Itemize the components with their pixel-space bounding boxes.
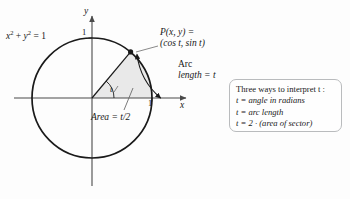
callout-item-0: t = angle in radians <box>236 95 325 106</box>
arc-length-line2: length = t <box>178 70 216 81</box>
point-leader-line <box>136 46 158 52</box>
arc-length-label: Arc length = t <box>178 59 216 80</box>
interpretation-callout-text: Three ways to interpret t : t = angle in… <box>236 84 325 130</box>
callout-item-1: t = arc length <box>236 107 325 118</box>
y-tick-one-label: 1 <box>82 28 86 38</box>
point-p-marker <box>128 49 133 54</box>
area-label: Area = t/2 <box>91 112 130 123</box>
point-p-label: P(x, y) = (cos t, sin t) <box>160 27 205 48</box>
arc-length-line1: Arc <box>178 59 216 70</box>
point-p-line1: P(x, y) = <box>160 27 205 38</box>
point-p-line2: (cos t, sin t) <box>160 38 205 49</box>
y-axis-label: y <box>84 6 88 17</box>
figure-page: x2 + y2 = 1 y x 1 1 t P(x, y) = (cos t, … <box>0 0 350 199</box>
callout-item-2: t = 2 · (area of sector) <box>236 118 325 129</box>
angle-t-label: t <box>110 85 112 95</box>
circle-equation-label: x2 + y2 = 1 <box>6 31 46 42</box>
x-axis-label: x <box>180 100 184 111</box>
x-tick-one-label: 1 <box>148 99 152 109</box>
callout-heading: Three ways to interpret t : <box>236 84 325 95</box>
